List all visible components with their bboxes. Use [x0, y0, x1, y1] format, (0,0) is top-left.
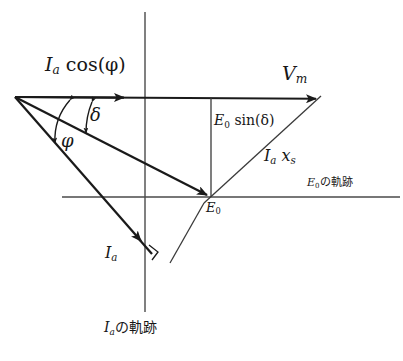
- label-ia-locus: Iaの軌跡: [104, 320, 157, 336]
- label-e0-sin-delta-main: E: [214, 112, 224, 128]
- label-e0-point: E0: [206, 201, 221, 216]
- label-ia-cos-phi: Ia cos(φ): [45, 55, 126, 77]
- label-e0-point-main: E: [206, 200, 216, 215]
- label-delta-angle: δ: [90, 106, 101, 124]
- label-e0-point-sub: 0: [216, 206, 221, 216]
- label-ia-xs-sub1: a: [270, 154, 276, 166]
- ia-xs-extension: [170, 203, 204, 263]
- ia-cos-phi-phasor: [15, 97, 124, 98]
- label-ia-cos-phi-rest: cos(φ): [60, 53, 126, 75]
- label-phi-angle: φ: [61, 132, 74, 150]
- label-e0-locus-rest: の軌跡: [320, 176, 353, 189]
- label-vm-main: V: [282, 62, 296, 84]
- label-ia-cos-phi-main: I: [45, 53, 53, 75]
- e0-phasor: [15, 97, 207, 195]
- label-e0-locus-main: E: [307, 176, 315, 189]
- label-ia-xs-main2: x: [282, 146, 291, 165]
- label-vm-sub: m: [296, 72, 308, 86]
- label-ia-xs: Ia xs: [264, 148, 296, 165]
- label-e0-sin-delta: E0 sin(δ): [214, 113, 274, 129]
- label-ia-vector: Ia: [105, 245, 117, 262]
- label-ia-xs-sub2: s: [291, 154, 296, 166]
- label-ia-vector-sub: a: [111, 251, 117, 263]
- label-vm: Vm: [282, 64, 307, 86]
- phasor-diagram: Ia cos(φ) Vm δ φ E0 sin(δ) Ia xs E0の軌跡 E…: [0, 0, 403, 361]
- label-e0-locus: E0の軌跡: [307, 177, 353, 189]
- label-ia-locus-rest: の軌跡: [115, 319, 157, 335]
- label-e0-sin-delta-rest: sin(δ): [230, 112, 274, 128]
- label-ia-cos-phi-sub: a: [53, 63, 60, 77]
- ia-phasor: [15, 97, 141, 241]
